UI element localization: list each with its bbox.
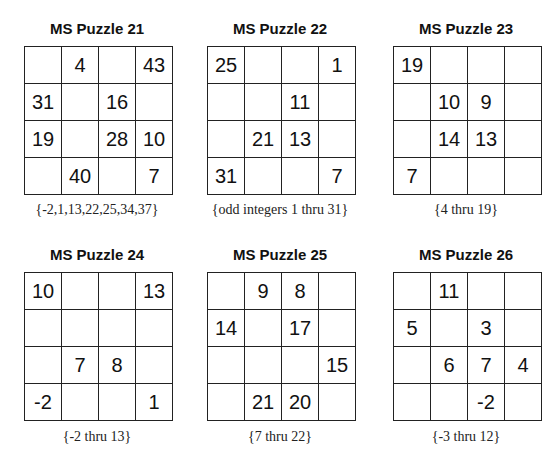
grid-cell: 31 — [25, 84, 62, 121]
puzzle-caption: {4 thru 19} — [373, 202, 558, 218]
magic-square-grid: 4 43 31 16 19 28 10 40 7 — [24, 46, 173, 195]
grid-cell — [319, 84, 356, 121]
grid-row: 31 7 — [208, 158, 356, 195]
grid-cell: 4 — [505, 347, 542, 384]
grid-cell — [282, 347, 319, 384]
grid-cell — [431, 384, 468, 421]
grid-cell: 9 — [468, 84, 505, 121]
grid-cell — [505, 121, 542, 158]
grid-cell: 3 — [468, 310, 505, 347]
grid-cell — [25, 347, 62, 384]
grid-row: 10 9 — [394, 84, 542, 121]
grid-cell — [505, 158, 542, 195]
grid-cell: 8 — [282, 273, 319, 310]
grid-cell — [394, 347, 431, 384]
grid-cell — [245, 158, 282, 195]
grid-cell: 1 — [319, 47, 356, 84]
grid-row: 14 17 — [208, 310, 356, 347]
grid-row: 21 13 — [208, 121, 356, 158]
grid-cell: 21 — [245, 121, 282, 158]
grid-cell — [62, 384, 99, 421]
grid-cell — [208, 273, 245, 310]
grid-row: 5 3 — [394, 310, 542, 347]
grid-cell: 43 — [136, 47, 173, 84]
grid-cell — [99, 384, 136, 421]
grid-cell — [99, 47, 136, 84]
puzzle-title: MS Puzzle 21 — [4, 21, 190, 37]
grid-cell: 11 — [282, 84, 319, 121]
grid-cell: 14 — [208, 310, 245, 347]
puzzle-title: MS Puzzle 22 — [187, 21, 373, 37]
magic-square-grid: 19 10 9 14 13 7 — [393, 46, 542, 195]
grid-row: 11 — [394, 273, 542, 310]
grid-cell: 16 — [99, 84, 136, 121]
grid-cell — [62, 310, 99, 347]
grid-cell — [468, 47, 505, 84]
grid-cell: 25 — [208, 47, 245, 84]
puzzle-caption: {-2 thru 13} — [4, 429, 190, 445]
grid-cell: 20 — [282, 384, 319, 421]
grid-cell: 11 — [431, 273, 468, 310]
grid-cell — [99, 273, 136, 310]
grid-row: 7 — [394, 158, 542, 195]
grid-row: 11 — [208, 84, 356, 121]
grid-cell: 7 — [468, 347, 505, 384]
grid-row: 19 — [394, 47, 542, 84]
puzzle-title: MS Puzzle 25 — [187, 247, 373, 263]
grid-cell — [394, 273, 431, 310]
grid-cell — [136, 347, 173, 384]
grid-cell: 14 — [431, 121, 468, 158]
grid-cell — [136, 84, 173, 121]
grid-cell: 28 — [99, 121, 136, 158]
grid-cell — [245, 310, 282, 347]
puzzle-title: MS Puzzle 26 — [373, 247, 558, 263]
grid-cell — [25, 310, 62, 347]
grid-cell — [468, 273, 505, 310]
grid-cell: 7 — [394, 158, 431, 195]
grid-cell — [394, 84, 431, 121]
grid-cell: 9 — [245, 273, 282, 310]
grid-cell: 7 — [136, 158, 173, 195]
grid-cell — [136, 310, 173, 347]
grid-row: -2 — [394, 384, 542, 421]
grid-row: 19 28 10 — [25, 121, 173, 158]
magic-square-grid: 9 8 14 17 15 21 20 — [207, 272, 356, 421]
grid-cell — [319, 273, 356, 310]
grid-cell — [505, 384, 542, 421]
grid-cell: 19 — [25, 121, 62, 158]
grid-cell — [245, 84, 282, 121]
grid-cell — [505, 273, 542, 310]
grid-cell — [25, 47, 62, 84]
grid-cell — [99, 158, 136, 195]
grid-cell: -2 — [25, 384, 62, 421]
grid-cell — [505, 84, 542, 121]
grid-cell: 31 — [208, 158, 245, 195]
grid-cell: 40 — [62, 158, 99, 195]
grid-cell: 6 — [431, 347, 468, 384]
grid-cell — [394, 121, 431, 158]
grid-cell: 13 — [468, 121, 505, 158]
magic-square-grid: 10 13 7 8 -2 1 — [24, 272, 173, 421]
grid-row: -2 1 — [25, 384, 173, 421]
puzzle-caption: {-3 thru 12} — [373, 429, 558, 445]
grid-cell: 10 — [136, 121, 173, 158]
magic-square-grid: 25 1 11 21 13 31 7 — [207, 46, 356, 195]
grid-cell — [319, 310, 356, 347]
grid-cell — [505, 47, 542, 84]
grid-row: 40 7 — [25, 158, 173, 195]
grid-row: 10 13 — [25, 273, 173, 310]
puzzle-caption: {-2,1,13,22,25,34,37} — [4, 202, 190, 218]
grid-row: 14 13 — [394, 121, 542, 158]
grid-cell: 13 — [282, 121, 319, 158]
grid-cell — [282, 158, 319, 195]
grid-cell — [62, 121, 99, 158]
grid-cell — [99, 310, 136, 347]
grid-row: 6 7 4 — [394, 347, 542, 384]
grid-cell — [431, 47, 468, 84]
grid-row: 15 — [208, 347, 356, 384]
grid-cell: 7 — [319, 158, 356, 195]
grid-cell — [468, 158, 505, 195]
magic-square-grid: 11 5 3 6 7 4 -2 — [393, 272, 542, 421]
grid-cell: 5 — [394, 310, 431, 347]
grid-row: 25 1 — [208, 47, 356, 84]
